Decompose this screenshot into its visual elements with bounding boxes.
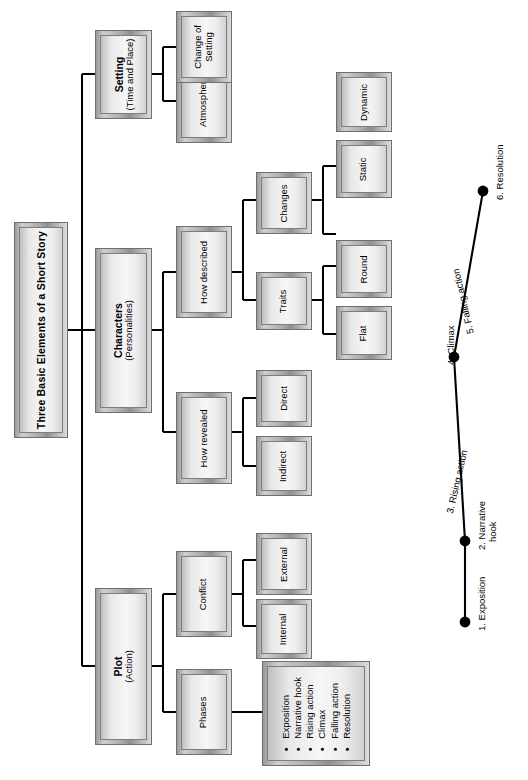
node-indirect-label: Indirect [279,450,290,481]
node-root-inner: Three Basic Elements of a Short Story [19,227,63,433]
node-static-inner: Static [341,145,387,193]
node-phases-list[interactable]: Exposition Narrative hook Rising action … [262,661,370,766]
node-round-inner: Round [341,245,387,293]
node-traits-inner: Traits [261,277,307,325]
plot-curve-svg [418,120,528,660]
node-plot[interactable]: Plot (Action) [95,588,152,745]
node-changes-inner: Changes [261,177,307,229]
node-flat-label: Flat [359,325,370,341]
node-phases[interactable]: Phases [176,669,232,755]
node-direct[interactable]: Direct [256,370,312,427]
node-flat-inner: Flat [341,311,387,355]
list-item: Resolution [340,677,352,739]
node-plot-label: Plot (Action) [112,650,135,683]
plot-label-narrative-hook: 2. Narrative hook [476,501,499,550]
plot-point-resolution[interactable] [478,186,489,197]
node-how-revealed-label: How revealed [199,409,210,467]
node-change-of-setting[interactable]: Change ofSetting [176,11,232,83]
node-external-inner: External [261,538,307,590]
plot-curve-line [454,191,483,622]
node-dynamic-label: Dynamic [359,84,370,121]
list-item: Rising action [304,677,316,739]
node-static[interactable]: Static [336,140,392,198]
plot-label-climax: 4. Climax [445,325,456,365]
node-indirect[interactable]: Indirect [256,436,312,496]
node-direct-label: Direct [279,386,290,411]
node-changes[interactable]: Changes [256,172,312,234]
node-how-described-inner: How described [181,231,227,313]
node-round-label: Round [359,255,370,283]
phases-list-rotator: Exposition Narrative hook Rising action … [280,677,353,750]
node-dynamic-inner: Dynamic [341,77,387,127]
node-conflict-inner: Conflict [181,556,227,632]
plot-label-resolution: 6. Resolution [494,145,505,200]
node-how-described[interactable]: How described [176,226,232,318]
node-changes-label: Changes [279,184,290,222]
list-item: Falling action [328,677,340,739]
node-how-revealed[interactable]: How revealed [176,392,232,484]
node-root-label: Three Basic Elements of a Short Story [35,231,47,429]
node-static-label: Static [359,157,370,181]
node-internal[interactable]: Internal [256,599,312,659]
plot-label-exposition: 1. Exposition [476,577,487,631]
node-setting-inner: Setting (Time and Place) [100,35,147,114]
node-direct-inner: Direct [261,375,307,422]
node-characters-label: Characters (Personalities) [112,300,135,361]
node-change-of-setting-inner: Change ofSetting [181,16,227,78]
node-internal-label: Internal [279,613,290,645]
node-indirect-inner: Indirect [261,441,307,491]
node-conflict-label: Conflict [199,578,210,610]
node-change-of-setting-label: Change ofSetting [193,25,215,69]
node-characters-subtitle: (Personalities) [124,300,135,361]
plot-point-narrative-hook[interactable] [460,536,471,547]
plot-point-exposition[interactable] [460,617,471,628]
node-setting-subtitle: (Time and Place) [124,39,135,111]
node-external[interactable]: External [256,533,312,595]
list-item: Narrative hook [292,677,304,739]
node-traits[interactable]: Traits [256,272,312,330]
node-external-label: External [279,547,290,582]
node-round[interactable]: Round [336,240,392,298]
diagram-canvas: Three Basic Elements of a Short Story Se… [0,0,528,780]
list-item: Climax [316,677,328,739]
plot-structure-chart: 1. Exposition 2. Narrative hook 3. Risin… [418,120,528,660]
node-how-described-label: How described [199,241,210,304]
node-flat[interactable]: Flat [336,306,392,360]
phases-list: Exposition Narrative hook Rising action … [280,677,353,750]
node-plot-inner: Plot (Action) [100,593,147,740]
node-characters-inner: Characters (Personalities) [100,253,147,408]
node-plot-subtitle: (Action) [124,650,135,683]
node-how-revealed-inner: How revealed [181,397,227,479]
node-conflict[interactable]: Conflict [176,551,232,637]
node-root[interactable]: Three Basic Elements of a Short Story [14,222,68,438]
node-setting[interactable]: Setting (Time and Place) [95,30,152,119]
node-internal-inner: Internal [261,604,307,654]
node-setting-label: Setting (Time and Place) [112,39,135,111]
node-atmosphere-label: Atmosphere [199,75,210,126]
node-phases-list-inner: Exposition Narrative hook Rising action … [267,666,365,761]
node-phases-label: Phases [199,696,210,728]
node-dynamic[interactable]: Dynamic [336,72,392,132]
list-item: Exposition [280,677,292,739]
node-phases-inner: Phases [181,674,227,750]
node-characters[interactable]: Characters (Personalities) [95,248,152,413]
node-setting-title: Setting [112,39,124,111]
node-traits-label: Traits [279,289,290,312]
